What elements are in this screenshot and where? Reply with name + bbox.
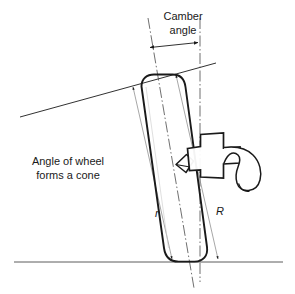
hub-body [188,133,241,178]
radius-inner-label: r [155,207,159,221]
steering-arm [224,147,261,191]
camber-angle-label-line1: Camber [163,10,202,22]
cone-note-label: Angle of wheel forms a cone [16,155,120,183]
tyre-inner-edge [146,87,169,248]
camber-angle-diagram [0,0,295,294]
camber-dimension-arrow [150,43,198,48]
camber-angle-label: Camber angle [147,10,219,38]
diagram-canvas: Camber angle Angle of wheel forms a cone… [0,0,295,294]
cone-note-line2: forms a cone [36,169,100,181]
camber-angle-label-line2: angle [170,24,197,36]
radius-outer-label: R [216,205,224,219]
cone-note-line1: Angle of wheel [32,155,104,167]
